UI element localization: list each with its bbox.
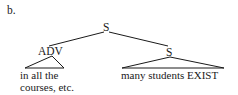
edge-root-to-adv bbox=[49, 32, 104, 46]
node-adv: ADV bbox=[38, 45, 63, 57]
adv-terminal-line-2: courses, etc. bbox=[20, 81, 74, 93]
node-s-right: S bbox=[166, 46, 172, 58]
adv-terminal-line-1: in all the bbox=[20, 69, 59, 81]
s-terminal: many students EXIST bbox=[121, 69, 218, 81]
edge-root-to-s bbox=[109, 32, 168, 46]
node-root-s: S bbox=[103, 21, 109, 33]
s-triangle bbox=[122, 57, 224, 68]
adv-triangle bbox=[25, 56, 64, 68]
